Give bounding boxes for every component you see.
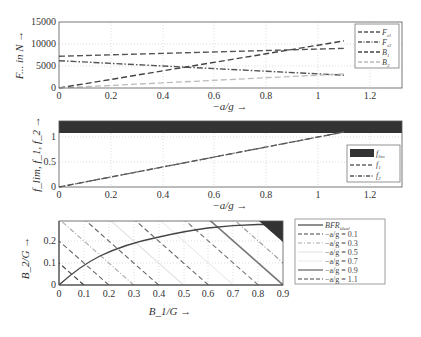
bottom-series [59, 43, 333, 285]
svg-text:1: 1 [316, 189, 321, 200]
svg-text:0: 0 [51, 181, 56, 192]
bottom-xlabel: B_1/G → [149, 305, 191, 317]
figure: 0 0.2 0.4 0.6 0.8 1 1.2 0 5000 10000 150… [0, 0, 421, 337]
middle-chart: 0 0.2 0.4 0.6 0.8 1 1.2 0 0.5 1 −a/g → f… [30, 116, 402, 211]
svg-text:0.8: 0.8 [260, 90, 273, 101]
svg-text:0.1: 0.1 [44, 257, 57, 268]
series-b2 [59, 74, 344, 88]
svg-text:1.2: 1.2 [364, 189, 377, 200]
middle-yticks: 0 0.5 1 [44, 131, 57, 192]
svg-text:0.6: 0.6 [202, 288, 215, 299]
svg-text:−a/g = 0.1: −a/g = 0.1 [325, 230, 358, 239]
bottom-yticks: 0 0.1 0.2 [44, 235, 57, 290]
svg-text:10000: 10000 [31, 38, 56, 49]
middle-legend: flim f1 f2 [347, 145, 400, 182]
svg-text:0: 0 [51, 279, 56, 290]
svg-text:0.8: 0.8 [260, 189, 273, 200]
svg-text:0.5: 0.5 [178, 288, 191, 299]
svg-text:0.2: 0.2 [105, 189, 118, 200]
bottom-xticks: 0 0.1 0.2 0.3 0.4 0.5 0.6 0.7 0.8 0.9 [57, 288, 290, 299]
middle-xlabel: −a/g → [212, 199, 247, 211]
flim-band [59, 121, 402, 133]
svg-text:0: 0 [51, 82, 56, 93]
svg-text:−a/g = 1.1: −a/g = 1.1 [325, 275, 358, 284]
svg-text:15000: 15000 [31, 16, 56, 27]
bottom-ylabel: B_2/G → [19, 237, 31, 279]
svg-text:0.1: 0.1 [78, 288, 91, 299]
series-bfr-ideal [59, 228, 280, 285]
top-plot-frame [59, 22, 402, 88]
top-ylabel: F... in N → [13, 31, 25, 81]
top-grid [59, 22, 402, 88]
series-fz2 [59, 61, 344, 75]
svg-text:0.2: 0.2 [44, 235, 57, 246]
series-fz1 [59, 48, 344, 56]
svg-text:0.4: 0.4 [157, 189, 170, 200]
svg-text:0: 0 [57, 90, 62, 101]
svg-text:0.2: 0.2 [105, 90, 118, 101]
svg-text:0.5: 0.5 [44, 156, 57, 167]
svg-text:0.4: 0.4 [157, 90, 170, 101]
svg-text:1.2: 1.2 [364, 90, 377, 101]
svg-text:−a/g = 0.7: −a/g = 0.7 [325, 257, 358, 266]
svg-text:0.7: 0.7 [227, 288, 240, 299]
svg-text:0.2: 0.2 [103, 288, 116, 299]
svg-text:−a/g = 0.9: −a/g = 0.9 [325, 266, 358, 275]
top-chart: 0 0.2 0.4 0.6 0.8 1 1.2 0 5000 10000 150… [13, 16, 402, 112]
svg-text:0.3: 0.3 [128, 288, 141, 299]
top-xlabel: −a/g → [212, 100, 247, 112]
svg-text:1: 1 [316, 90, 321, 101]
svg-text:0: 0 [57, 189, 62, 200]
bottom-chart: 0 0.1 0.2 0.3 0.4 0.5 0.6 0.7 0.8 0.9 0 … [19, 43, 385, 317]
bottom-legend: BFRideal −a/g = 0.1 −a/g = 0.3 −a/g = 0.… [295, 219, 385, 284]
top-yticks: 0 5000 10000 15000 [31, 16, 56, 93]
top-legend: Fz1 Fz2 B1 B2 [355, 24, 399, 68]
svg-text:5000: 5000 [36, 60, 56, 71]
series-b1 [59, 41, 344, 88]
svg-text:0.9: 0.9 [277, 288, 290, 299]
svg-text:−a/g = 0.3: −a/g = 0.3 [325, 239, 358, 248]
svg-text:0.4: 0.4 [153, 288, 166, 299]
middle-ylabel: f_lim, f_1, f_2 → [30, 116, 42, 191]
svg-text:0: 0 [57, 288, 62, 299]
svg-text:−a/g = 0.5: −a/g = 0.5 [325, 248, 358, 257]
limit-triangle [259, 221, 283, 242]
svg-text:0.8: 0.8 [252, 288, 265, 299]
svg-text:1: 1 [51, 131, 56, 142]
